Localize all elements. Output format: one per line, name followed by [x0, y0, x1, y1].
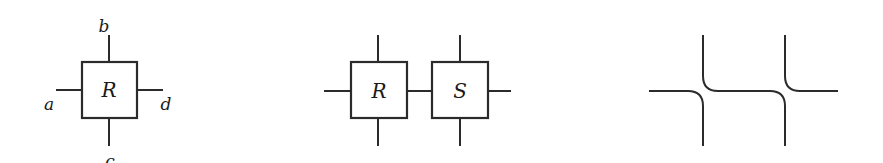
port-label-c: c [105, 151, 115, 163]
left-lower-curve [649, 91, 703, 146]
diagram-single-box: R b a d c [44, 16, 172, 163]
diagram-canvas: R b a d c R S [0, 0, 883, 163]
diagram-two-boxes: R S [324, 35, 511, 146]
diagram-curved-wires [649, 35, 838, 146]
right-upper-curve [785, 35, 838, 91]
box-r2-label: R [370, 79, 386, 103]
middle-s-curve [703, 35, 785, 146]
box-r-label: R [100, 78, 116, 102]
port-label-b: b [99, 16, 110, 36]
port-label-d: d [161, 94, 172, 114]
box-s-label: S [453, 79, 467, 103]
port-label-a: a [44, 94, 54, 114]
